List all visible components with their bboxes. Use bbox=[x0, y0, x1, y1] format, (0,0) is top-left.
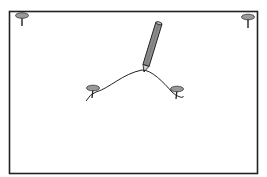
board-frame bbox=[10, 12, 258, 174]
diagram-canvas bbox=[0, 0, 267, 177]
diagram-stage bbox=[0, 0, 267, 177]
